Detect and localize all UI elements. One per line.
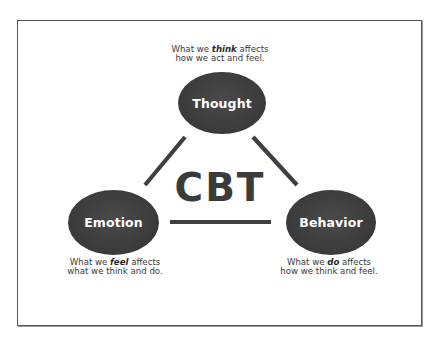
thought-node-label: Thought — [192, 96, 251, 111]
behavior-caption-line2: how we think and feel. — [259, 267, 399, 276]
thought-caption: What we think affects how we act and fee… — [150, 45, 290, 63]
thought-caption-line2: how we act and feel. — [150, 54, 290, 63]
behavior-node: Behavior — [286, 190, 376, 255]
emotion-caption: What we feel affects what we think and d… — [45, 258, 185, 276]
behavior-caption: What we do affects how we think and feel… — [259, 258, 399, 276]
diagram-title: CBT — [172, 166, 268, 210]
emotion-caption-line2: what we think and do. — [45, 267, 185, 276]
emotion-node-label: Emotion — [84, 215, 143, 230]
thought-node: Thought — [178, 72, 266, 134]
emotion-node: Emotion — [68, 190, 159, 255]
behavior-node-label: Behavior — [299, 215, 362, 230]
